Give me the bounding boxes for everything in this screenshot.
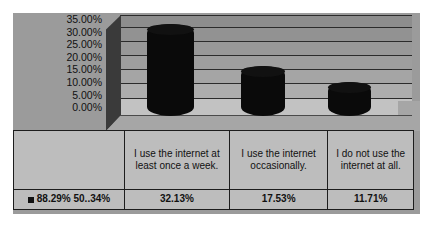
y-tick-label: 0.00% [13, 101, 104, 114]
plot-area: 35.00% 30.00% 25.00% 20.00% 15.00% 10.00… [13, 13, 420, 131]
table-row-categories: I use the internet at least once a week.… [14, 131, 414, 190]
category-label-weekly: I use the internet at least once a week. [125, 131, 230, 190]
value-cell-never: 11.71% [328, 190, 414, 210]
y-axis-tick-labels: 35.00% 30.00% 25.00% 20.00% 15.00% 10.00… [13, 13, 104, 114]
y-tick-label: 10.00% [13, 76, 104, 89]
y-tick-label: 25.00% [13, 38, 104, 51]
data-table: I use the internet at least once a week.… [13, 130, 414, 210]
table-corner-cell [14, 131, 125, 190]
table-row-values: 88.29% 50..34% 32.13% 17.53% 11.71% [14, 190, 414, 210]
value-cell-occasionally: 17.53% [229, 190, 328, 210]
y-tick-label: 15.00% [13, 63, 104, 76]
chart-side-wall [106, 15, 121, 131]
y-tick-label: 5.00% [13, 89, 104, 102]
legend-entry: 88.29% 50..34% [14, 190, 125, 210]
chart-figure: 35.00% 30.00% 25.00% 20.00% 15.00% 10.00… [13, 13, 420, 214]
y-tick-label: 20.00% [13, 51, 104, 64]
value-cell-weekly: 32.13% [125, 190, 230, 210]
bar-internet-never [328, 82, 371, 116]
legend-swatch-icon [28, 197, 34, 203]
category-label-never: I do not use the internet at all. [328, 131, 414, 190]
y-tick-label: 35.00% [13, 13, 104, 26]
y-tick-label: 30.00% [13, 26, 104, 39]
legend-label: 88.29% 50..34% [37, 193, 110, 204]
bar-internet-weekly [147, 24, 194, 116]
gridline-35 [120, 15, 412, 16]
category-label-occasionally: I use the internet occasionally. [229, 131, 328, 190]
bar-internet-occasionally [241, 66, 285, 116]
